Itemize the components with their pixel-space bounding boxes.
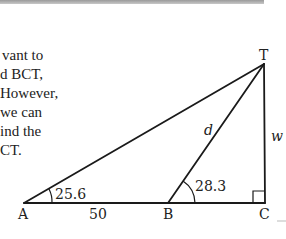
- angle-arc-B: [183, 181, 195, 203]
- vertex-label-T: T: [259, 47, 269, 63]
- side-label-w: w: [271, 128, 283, 144]
- vertex-label-B: B: [163, 206, 173, 222]
- angle-label-A: 25.6: [55, 186, 86, 202]
- right-angle-marker: [253, 191, 265, 203]
- angle-arc-A: [49, 189, 52, 203]
- side-AT: [24, 64, 264, 203]
- side-label-d: d: [204, 122, 213, 138]
- side-TC: [264, 64, 265, 203]
- vertex-label-A: A: [17, 206, 29, 222]
- side-label-AB: 50: [89, 206, 107, 222]
- angle-label-B: 28.3: [195, 178, 226, 194]
- vertex-label-C: C: [259, 206, 270, 222]
- triangle-diagram: T A B C 25.6 28.3 50 d w: [0, 0, 286, 239]
